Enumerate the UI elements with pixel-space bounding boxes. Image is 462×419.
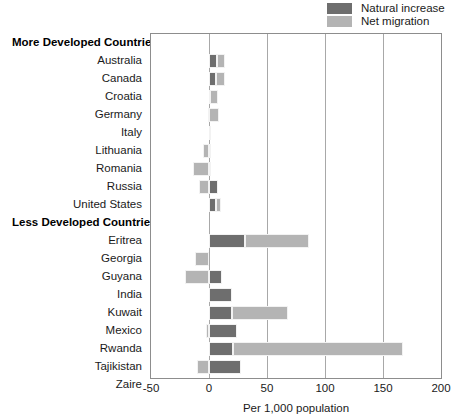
category-label: Tajikistan [95, 357, 142, 375]
bar-segment-net-migration [210, 90, 218, 104]
x-tick-label: -50 [143, 381, 160, 395]
bar-segment-net-migration [206, 324, 209, 338]
bar-segment-natural-increase [209, 324, 237, 338]
bar-segment-net-migration [192, 378, 209, 379]
bar-segment-net-migration [233, 342, 402, 356]
bar-segment-net-migration [209, 108, 219, 122]
group-heading: More Developed Countries [12, 33, 158, 51]
bar-row [151, 250, 441, 268]
category-label: Guyana [102, 267, 142, 285]
category-label: Rwanda [100, 339, 142, 357]
chart-page: Natural increase Net migration More Deve… [0, 0, 462, 419]
category-label: Mexico [106, 321, 142, 339]
plot-area [150, 33, 442, 379]
category-axis: More Developed CountriesAustraliaCanadaC… [0, 33, 146, 379]
bar-row [151, 160, 441, 178]
x-axis-ticks: -50050100150200 [0, 381, 462, 396]
bar-segment-natural-increase [209, 378, 247, 379]
bar-segment-net-migration [185, 270, 209, 284]
bar-segment-natural-increase [209, 342, 233, 356]
bar-row [151, 124, 441, 142]
bar-segment-net-migration [216, 72, 225, 86]
category-label: Lithuania [95, 141, 142, 159]
bar-row [151, 376, 441, 379]
bar-segment-net-migration [217, 54, 225, 68]
bar-segment-net-migration [245, 234, 309, 248]
bar-row [151, 52, 441, 70]
bar-segment-net-migration [232, 306, 288, 320]
bar-segment-natural-increase [209, 54, 217, 68]
legend-swatch-icon [326, 16, 353, 27]
bar-row [151, 322, 441, 340]
bar-segment-natural-increase [209, 162, 211, 176]
bar-row [151, 304, 441, 322]
x-axis-title: Per 1,000 population [150, 402, 442, 414]
bar-segment-net-migration [199, 180, 209, 194]
legend-swatch-icon [326, 3, 353, 14]
bar-segment-natural-increase [209, 270, 222, 284]
bar-row [151, 142, 441, 160]
bar-segment-natural-increase [209, 306, 232, 320]
bar-row [151, 232, 441, 250]
bar-segment-natural-increase [209, 360, 241, 374]
bar-segment-net-migration [193, 162, 209, 176]
x-tick-label: 200 [431, 381, 450, 395]
bar-row [151, 286, 441, 304]
bar-segment-natural-increase [209, 144, 211, 158]
bar-row [151, 178, 441, 196]
x-tick-label: 50 [261, 381, 274, 395]
legend-item: Natural increase [326, 2, 460, 15]
bar-segment-net-migration [209, 126, 211, 140]
bar-segment-natural-increase [209, 180, 218, 194]
category-label: Georgia [101, 249, 142, 267]
bar-segment-net-migration [216, 198, 221, 212]
category-label: Romania [96, 159, 142, 177]
bar-segment-net-migration [203, 144, 209, 158]
category-label: United States [73, 195, 142, 213]
bar-row [151, 340, 441, 358]
bar-segment-net-migration [195, 252, 209, 266]
bar-segment-natural-increase [209, 288, 232, 302]
bar-segment-net-migration [197, 360, 209, 374]
gridline [441, 34, 442, 378]
category-label: Canada [102, 69, 142, 87]
legend-item-label: Natural increase [361, 2, 445, 15]
category-label: Italy [121, 123, 142, 141]
legend-item: Net migration [326, 15, 460, 28]
legend-item-label: Net migration [361, 15, 429, 28]
category-label: India [117, 285, 142, 303]
category-label: Kuwait [107, 303, 142, 321]
bar-row [151, 358, 441, 376]
bar-row [151, 196, 441, 214]
chart-legend: Natural increase Net migration [326, 2, 460, 28]
category-label: Germany [95, 105, 142, 123]
category-label: Eritrea [108, 231, 142, 249]
bar-row [151, 70, 441, 88]
category-label: Russia [107, 177, 142, 195]
group-heading: Less Developed Countries [12, 213, 156, 231]
bar-row [151, 268, 441, 286]
bar-row [151, 88, 441, 106]
category-label: Croatia [105, 87, 142, 105]
bar-segment-natural-increase [209, 72, 216, 86]
x-tick-label: 100 [315, 381, 334, 395]
bar-segment-natural-increase [209, 234, 245, 248]
bar-segment-natural-increase [209, 198, 216, 212]
x-tick-label: 150 [373, 381, 392, 395]
x-tick-label: 0 [206, 381, 212, 395]
bar-row [151, 106, 441, 124]
category-label: Australia [97, 51, 142, 69]
